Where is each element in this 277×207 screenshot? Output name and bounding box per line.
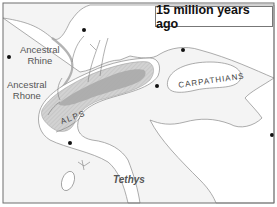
label-line: Rhone bbox=[7, 90, 47, 101]
label-line: Rhine bbox=[20, 55, 60, 66]
city-dot bbox=[82, 28, 86, 32]
title-box: 15 million years ago bbox=[155, 6, 273, 27]
label-line: Ancestral bbox=[20, 44, 60, 55]
label-line: Ancestral bbox=[7, 79, 47, 90]
map-title: 15 million years ago bbox=[156, 3, 272, 31]
city-dot bbox=[270, 133, 274, 137]
ancestral-rhone-label: Ancestral Rhone bbox=[7, 79, 47, 101]
city-dot bbox=[68, 141, 72, 145]
city-dot bbox=[155, 84, 159, 88]
city-dot bbox=[181, 48, 185, 52]
ancestral-rhine-label: Ancestral Rhine bbox=[20, 44, 60, 66]
city-dot bbox=[7, 55, 11, 59]
tethys-label: Tethys bbox=[113, 174, 145, 185]
